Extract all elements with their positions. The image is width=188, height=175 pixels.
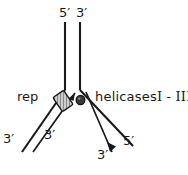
label-top-right-3-prime: 3′: [76, 6, 87, 19]
label-rep-protein: rep: [17, 90, 38, 103]
arrow-down-left-icon: [107, 142, 116, 152]
label-bottom-left-outer-3-prime: 3′: [3, 132, 14, 145]
fork-diagram-svg: [0, 0, 188, 175]
label-bottom-left-inner-3-prime: 3′: [44, 128, 55, 141]
label-helicases-range: I - III: [157, 89, 188, 104]
filled-circle-highlight-icon: [78, 97, 80, 99]
label-bottom-right-outer-5-prime: 5′: [123, 134, 134, 147]
filled-circle-icon: [76, 95, 85, 104]
duplex-stem: [65, 22, 80, 90]
label-top-left-5-prime: 5′: [59, 6, 70, 19]
helicase-protein-icon: [76, 95, 85, 104]
label-helicases-name: helicases: [95, 89, 157, 104]
rep-protein-icon: [53, 90, 73, 111]
label-helicases: helicasesI - III: [95, 90, 188, 103]
replication-fork-figure: 5′ 3′ rep helicasesI - III 3′ 3′ 3′ 5′: [0, 0, 188, 175]
label-bottom-right-inner-3-prime: 3′: [97, 148, 108, 161]
hatched-box-icon: [53, 90, 73, 111]
